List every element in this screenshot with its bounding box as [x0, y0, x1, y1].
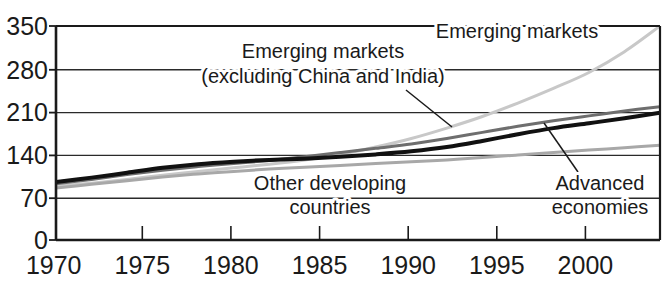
y-tick-label-210: 210: [6, 98, 48, 126]
emerging-ex-label-line2: (excluding China and India): [201, 65, 445, 87]
line-chart: 350 280 210 140 70 0 1970 1975 1980 1985…: [0, 0, 672, 285]
other-developing-label-line2: countries: [289, 196, 370, 218]
x-tick-label-1985: 1985: [292, 251, 348, 279]
x-tick-label-1975: 1975: [114, 251, 170, 279]
y-tick-label-70: 70: [20, 184, 48, 212]
y-tick-label-0: 0: [34, 226, 48, 254]
x-tick-label-1990: 1990: [380, 251, 436, 279]
advanced-label-line2: economies: [552, 196, 649, 218]
chart-svg: 350 280 210 140 70 0 1970 1975 1980 1985…: [0, 0, 672, 285]
emerging-ex-label-line1: Emerging markets: [242, 40, 404, 62]
y-tick-label-350: 350: [6, 12, 48, 40]
x-tick-label-1970: 1970: [26, 251, 82, 279]
x-axis-tick-labels: 1970 1975 1980 1985 1990 1995 2000: [26, 251, 613, 279]
emerging-markets-label: Emerging markets: [436, 20, 598, 42]
x-tick-label-1995: 1995: [469, 251, 525, 279]
y-tick-label-140: 140: [6, 141, 48, 169]
annotation-emerging-markets: Emerging markets Emerging markets: [436, 20, 598, 42]
advanced-label-line1: Advanced: [556, 172, 645, 194]
y-tick-label-280: 280: [6, 56, 48, 84]
y-axis-tick-labels: 350 280 210 140 70 0: [6, 12, 48, 254]
other-developing-label-line1: Other developing: [254, 172, 406, 194]
x-tick-label-1980: 1980: [203, 251, 259, 279]
x-tick-label-2000: 2000: [558, 251, 614, 279]
